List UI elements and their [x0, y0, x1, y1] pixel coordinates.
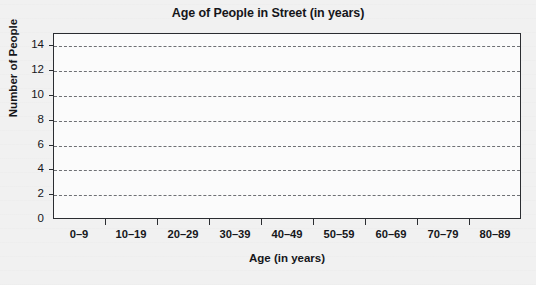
y-axis-tick-label: 10 — [31, 88, 44, 100]
gridline — [54, 96, 520, 97]
gridline — [54, 71, 520, 72]
gridline — [54, 195, 520, 196]
x-axis-tick-label: 50–59 — [313, 228, 365, 240]
x-axis-tick-label: 60–69 — [365, 228, 417, 240]
bar-chart-figure: Age of People in Street (in years) Numbe… — [0, 0, 536, 285]
plot-inner — [54, 34, 520, 218]
x-axis-tick — [261, 219, 262, 225]
x-axis-title: Age (in years) — [53, 252, 521, 264]
y-axis-title: Number of People — [7, 8, 19, 128]
x-axis-tick — [417, 219, 418, 225]
x-axis-tick-label: 40–49 — [261, 228, 313, 240]
x-axis-tick-label: 30–39 — [209, 228, 261, 240]
gridline — [54, 46, 520, 47]
x-axis-tick — [469, 219, 470, 225]
y-axis-tick-label: 4 — [38, 162, 44, 174]
y-axis-tick-label: 8 — [38, 113, 44, 125]
gridline — [54, 146, 520, 147]
y-axis-tick-label: 0 — [38, 212, 44, 224]
x-axis-tick-label: 10–19 — [105, 228, 157, 240]
y-axis-tick-label: 12 — [31, 63, 44, 75]
x-axis-tick — [157, 219, 158, 225]
gridline — [54, 170, 520, 171]
y-axis-tick-label: 2 — [38, 187, 44, 199]
plot-area — [53, 33, 521, 219]
x-axis-tick — [365, 219, 366, 225]
y-axis-tick-label: 6 — [38, 138, 44, 150]
x-axis-tick — [313, 219, 314, 225]
x-axis-tick — [209, 219, 210, 225]
chart-title: Age of People in Street (in years) — [0, 6, 536, 20]
x-axis-tick — [105, 219, 106, 225]
x-axis-tick-label: 70–79 — [417, 228, 469, 240]
x-axis-tick-label: 0–9 — [53, 228, 105, 240]
gridline — [54, 121, 520, 122]
x-axis-tick-label: 80–89 — [469, 228, 521, 240]
x-axis-tick-label: 20–29 — [157, 228, 209, 240]
y-axis-tick-label: 14 — [31, 38, 44, 50]
